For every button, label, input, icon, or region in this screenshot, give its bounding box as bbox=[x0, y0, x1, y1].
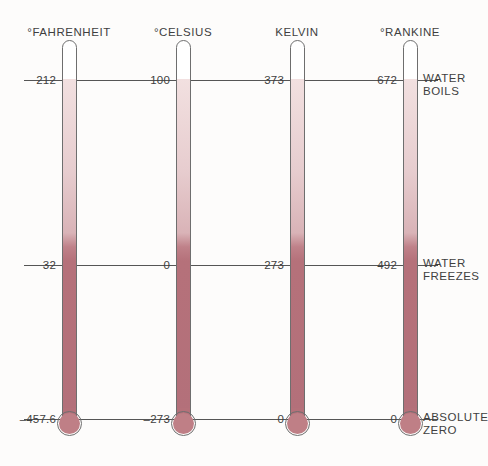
thermometer-tube-kelvin bbox=[290, 40, 305, 430]
value-kelvin-boil: 373 bbox=[242, 74, 284, 86]
thermometer-tube-fahrenheit bbox=[62, 40, 77, 430]
value-fahrenheit-boil: 212 bbox=[14, 74, 56, 86]
value-fahrenheit-absolute-zero: –457.6 bbox=[6, 413, 56, 425]
scale-heading-rankine: °RANKINE bbox=[380, 26, 440, 38]
mercury-column-rankine bbox=[404, 79, 417, 429]
thermometer-bulb-rankine bbox=[398, 411, 423, 436]
bulb-fill-celsius bbox=[173, 413, 194, 434]
thermometer-bulb-fahrenheit bbox=[57, 411, 82, 436]
value-kelvin-freeze: 273 bbox=[242, 259, 284, 271]
annotation-absolute-zero: ABSOLUTE ZERO bbox=[423, 411, 488, 436]
value-rankine-freeze: 492 bbox=[355, 259, 397, 271]
value-celsius-freeze: 0 bbox=[128, 259, 170, 271]
value-celsius-absolute-zero: –273 bbox=[120, 413, 170, 425]
value-fahrenheit-freeze: 32 bbox=[14, 259, 56, 271]
value-celsius-boil: 100 bbox=[128, 74, 170, 86]
thermometer-bulb-celsius bbox=[171, 411, 196, 436]
value-rankine-absolute-zero: 0 bbox=[347, 413, 397, 425]
scale-heading-fahrenheit: °FAHRENHEIT bbox=[27, 26, 111, 38]
scale-heading-celsius: °CELSIUS bbox=[154, 26, 212, 38]
bulb-fill-rankine bbox=[400, 413, 421, 434]
annotation-water-boils: WATER BOILS bbox=[423, 72, 466, 97]
mercury-column-celsius bbox=[177, 79, 190, 429]
mercury-column-fahrenheit bbox=[63, 79, 76, 429]
mercury-column-kelvin bbox=[291, 79, 304, 429]
bulb-fill-fahrenheit bbox=[59, 413, 80, 434]
value-rankine-boil: 672 bbox=[355, 74, 397, 86]
annotation-water-freezes: WATER FREEZES bbox=[423, 257, 480, 282]
scale-heading-kelvin: KELVIN bbox=[275, 26, 318, 38]
thermometer-tube-rankine bbox=[403, 40, 418, 430]
bulb-fill-kelvin bbox=[287, 413, 308, 434]
thermometer-bulb-kelvin bbox=[285, 411, 310, 436]
thermometer-tube-celsius bbox=[176, 40, 191, 430]
value-kelvin-absolute-zero: 0 bbox=[234, 413, 284, 425]
